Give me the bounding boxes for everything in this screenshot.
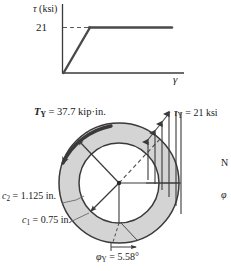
outer-radius-value: 1.125 <box>21 190 44 201</box>
figure-graphics <box>0 0 231 271</box>
shear-stress-unit: ksi <box>206 107 218 118</box>
outer-radius-unit: in. <box>46 190 56 201</box>
twist-angle-value: 5.58 <box>117 251 135 262</box>
elastic-branch <box>64 28 91 74</box>
outer-radius-label: c2 = 1.125 in. <box>2 191 56 203</box>
stress-envelope <box>147 112 170 141</box>
inner-radius-value: 0.75 <box>41 214 59 225</box>
twist-angle-label: φY = 5.58° <box>96 252 139 264</box>
torque-value: 37.7 <box>57 106 75 117</box>
tau-axis-unit: (ksi) <box>39 3 57 14</box>
yield-tick-label: 21 <box>36 22 47 33</box>
torsion-figure: τ (ksi) 21 γ TY = 37.7 kip·in. τY = 21 k… <box>0 0 231 271</box>
torque-unit: kip·in. <box>78 106 106 117</box>
twist-angle-unit: ° <box>135 251 139 262</box>
edge-text-fragment-bottom: φ <box>221 190 227 200</box>
inner-radius-label: c1 = 0.75 in. <box>22 215 71 227</box>
inner-radius-unit: in. <box>61 214 71 225</box>
torque-label: TY = 37.7 kip·in. <box>34 107 106 119</box>
tau-axis-label: τ (ksi) <box>33 4 57 14</box>
center-point <box>117 181 121 185</box>
gamma-axis-label: γ <box>173 74 177 85</box>
shear-stress-label: τY = 21 ksi <box>174 108 218 120</box>
cross-section <box>59 123 179 251</box>
shear-stress-value: 21 <box>193 107 203 118</box>
stress-strain-plot <box>63 4 185 74</box>
edge-text-fragment-top: N <box>221 158 228 168</box>
